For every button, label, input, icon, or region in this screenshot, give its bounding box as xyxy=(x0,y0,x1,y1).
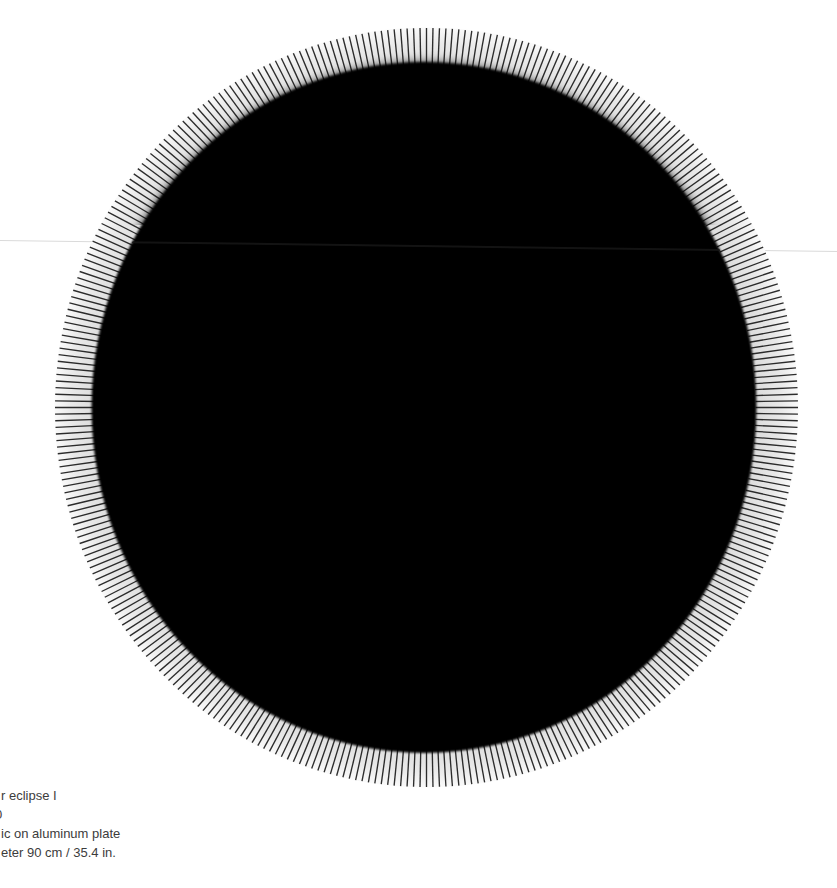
caption-line-title: r eclipse I xyxy=(1,786,120,805)
photo-stage: r eclipse I 0 ic on aluminum plate eter … xyxy=(0,0,837,888)
eclipse-artwork xyxy=(0,0,837,888)
caption-line-dimensions: eter 90 cm / 35.4 in. xyxy=(1,843,120,862)
caption-line-year: 0 xyxy=(1,805,120,824)
caption: r eclipse I 0 ic on aluminum plate eter … xyxy=(1,786,120,862)
caption-line-medium: ic on aluminum plate xyxy=(1,824,120,843)
